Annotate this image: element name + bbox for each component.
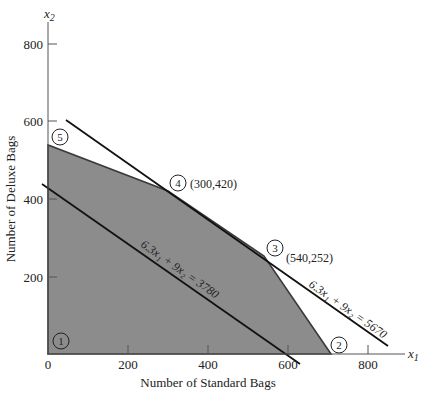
line-5670-label: 6.3x₁ + 9x₂ = 5670	[306, 277, 390, 341]
svg-text:1: 1	[58, 335, 64, 347]
lp-feasible-region-chart: 800 600 400 200 0 200 400 600 800 x2 x1 …	[0, 0, 427, 395]
y-tick-label: 800	[24, 37, 44, 52]
y-axis-title: Number of Deluxe Bags	[3, 136, 18, 263]
svg-text:4: 4	[175, 177, 181, 189]
svg-text:5: 5	[57, 131, 63, 143]
vertex-3: 3	[267, 240, 283, 256]
x-tick-label: 600	[278, 357, 298, 372]
x-axis-symbol: x1	[407, 346, 419, 363]
vertex-2: 2	[331, 337, 347, 353]
svg-text:2: 2	[336, 339, 342, 351]
x-tick-label: 400	[198, 357, 218, 372]
y-tick-label: 400	[24, 192, 44, 207]
vertex-4: 4	[170, 175, 186, 191]
svg-text:3: 3	[272, 242, 278, 254]
vertex-4-coord: (300,420)	[190, 177, 237, 191]
x-tick-label: 0	[45, 357, 52, 372]
x-axis-title: Number of Standard Bags	[140, 375, 275, 390]
y-tick-label: 600	[24, 114, 44, 129]
vertex-5: 5	[52, 129, 68, 145]
vertex-3-coord: (540,252)	[286, 251, 333, 265]
y-axis-symbol: x2	[43, 6, 55, 23]
y-tick-label: 200	[24, 270, 44, 285]
x-tick-label: 200	[118, 357, 138, 372]
x-tick-label: 800	[358, 357, 378, 372]
